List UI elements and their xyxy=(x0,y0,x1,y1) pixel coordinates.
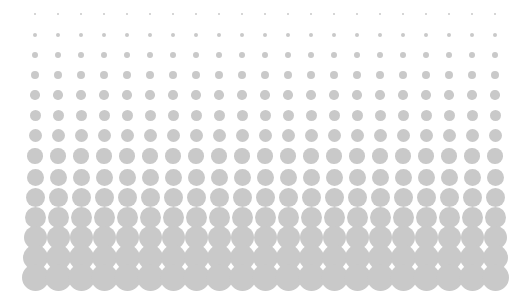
halftone-dot xyxy=(31,71,39,79)
halftone-dot xyxy=(94,207,115,228)
halftone-dot xyxy=(259,129,272,142)
halftone-dot xyxy=(469,52,475,58)
halftone-dot xyxy=(371,188,390,207)
halftone-dot xyxy=(53,90,63,100)
halftone-dot xyxy=(79,33,83,37)
halftone-dot xyxy=(122,110,133,121)
halftone-dot xyxy=(57,13,59,15)
halftone-dot xyxy=(33,33,37,37)
halftone-dot xyxy=(466,129,479,142)
halftone-dot xyxy=(443,129,456,142)
halftone-dot xyxy=(30,90,40,100)
halftone-dot xyxy=(379,13,381,15)
halftone-dot xyxy=(422,71,430,79)
halftone-dot xyxy=(399,71,407,79)
halftone-dot xyxy=(217,33,221,37)
halftone-dot xyxy=(310,13,312,15)
halftone-dot xyxy=(103,13,105,15)
halftone-dot xyxy=(147,52,153,58)
halftone-dot xyxy=(233,188,252,207)
halftone-dot xyxy=(241,13,243,15)
halftone-dot xyxy=(210,188,229,207)
halftone-dot xyxy=(48,207,69,228)
halftone-dot xyxy=(463,188,482,207)
halftone-dot xyxy=(486,188,505,207)
halftone-dot xyxy=(352,110,363,121)
halftone-dot xyxy=(124,52,130,58)
halftone-dot xyxy=(191,90,201,100)
halftone-dot xyxy=(75,129,88,142)
halftone-dot xyxy=(117,207,138,228)
halftone-dot xyxy=(27,148,43,164)
halftone-dot xyxy=(331,52,337,58)
halftone-dot xyxy=(397,129,410,142)
halftone-dot xyxy=(238,71,246,79)
halftone-dot xyxy=(493,33,497,37)
halftone-dot xyxy=(186,207,207,228)
halftone-dot xyxy=(280,169,297,186)
halftone-dot xyxy=(213,129,226,142)
halftone-dot xyxy=(468,71,476,79)
halftone-dot xyxy=(447,33,451,37)
halftone-dot xyxy=(25,207,46,228)
halftone-dot xyxy=(172,13,174,15)
halftone-dot xyxy=(487,169,504,186)
halftone-dot xyxy=(34,13,36,15)
halftone-dot xyxy=(372,148,388,164)
halftone-dot xyxy=(234,169,251,186)
halftone-dot xyxy=(395,148,411,164)
halftone-dot xyxy=(482,264,509,291)
halftone-dot xyxy=(282,129,295,142)
halftone-dot xyxy=(234,148,250,164)
halftone-dot xyxy=(309,33,313,37)
halftone-dot xyxy=(439,207,460,228)
halftone-dot xyxy=(352,90,362,100)
halftone-dot xyxy=(96,169,113,186)
halftone-dot xyxy=(286,33,290,37)
halftone-dot xyxy=(283,110,294,121)
halftone-dot xyxy=(168,90,178,100)
halftone-dot xyxy=(73,148,89,164)
halftone-dot xyxy=(349,169,366,186)
halftone-dot xyxy=(394,188,413,207)
halftone-dot xyxy=(440,188,459,207)
halftone-dot xyxy=(53,110,64,121)
halftone-dot xyxy=(262,52,268,58)
halftone-dot xyxy=(237,90,247,100)
halftone-dot xyxy=(398,110,409,121)
halftone-dot xyxy=(329,110,340,121)
halftone-dot xyxy=(353,71,361,79)
halftone-dot xyxy=(324,207,345,228)
halftone-dot xyxy=(257,148,273,164)
halftone-dot xyxy=(29,129,42,142)
halftone-dot xyxy=(257,169,274,186)
halftone-dot xyxy=(308,52,314,58)
halftone-dot xyxy=(119,148,135,164)
halftone-dot xyxy=(354,52,360,58)
halftone-dot xyxy=(417,188,436,207)
halftone-dot xyxy=(490,90,500,100)
halftone-dot xyxy=(470,33,474,37)
halftone-dot xyxy=(494,13,496,15)
halftone-dot xyxy=(100,71,108,79)
halftone-dot xyxy=(418,169,435,186)
halftone-dot xyxy=(194,33,198,37)
halftone-dot xyxy=(211,169,228,186)
halftone-dot xyxy=(445,71,453,79)
halftone-dot xyxy=(78,52,84,58)
halftone-dot xyxy=(76,90,86,100)
halftone-dot xyxy=(188,169,205,186)
halftone-dot xyxy=(209,207,230,228)
halftone-dot xyxy=(307,71,315,79)
halftone-dot xyxy=(332,33,336,37)
halftone-dot xyxy=(122,90,132,100)
halftone-dot xyxy=(418,148,434,164)
halftone-dot xyxy=(306,90,316,100)
halftone-dot xyxy=(211,148,227,164)
halftone-dot xyxy=(214,110,225,121)
halftone-dot xyxy=(370,207,391,228)
halftone-dot xyxy=(71,207,92,228)
halftone-dot xyxy=(377,52,383,58)
halftone-dot xyxy=(280,148,296,164)
halftone-dot xyxy=(329,90,339,100)
